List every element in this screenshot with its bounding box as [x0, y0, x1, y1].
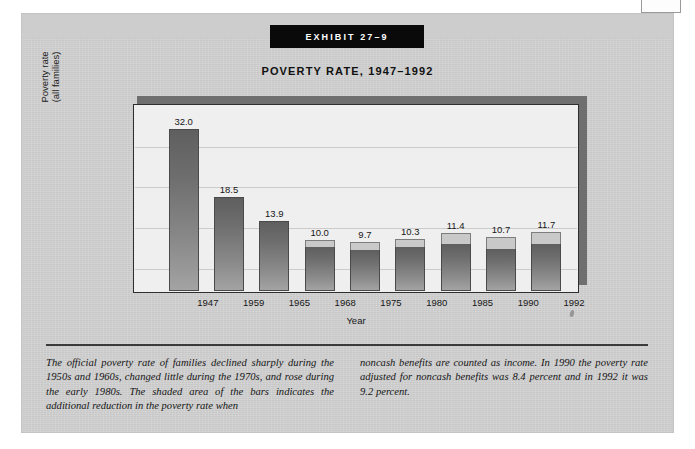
bar-body-1965	[259, 221, 289, 291]
bar-body-1959	[214, 197, 244, 291]
bar-1975	[350, 242, 380, 291]
x-tick-1990: 1990	[511, 297, 545, 308]
x-tick-1975: 1975	[374, 297, 408, 308]
bar-body-1980	[395, 247, 425, 291]
caption-column-right: noncash benefits are counted as income. …	[360, 356, 648, 414]
x-axis-tick-labels: 194719591965196819751980198519901992	[159, 297, 605, 308]
exhibit-page-panel: EXHIBIT 27–9 POVERTY RATE, 1947–1992 Pov…	[22, 14, 673, 432]
bar-column-1990: 10.7	[484, 114, 518, 291]
bar-column-1980: 10.3	[393, 114, 427, 291]
bar-column-1985: 11.4	[439, 114, 473, 291]
bar-1990	[486, 237, 516, 291]
bar-value-label-1992: 11.7	[516, 219, 576, 230]
bar-value-label-1965: 13.9	[244, 208, 304, 219]
bar-column-1975: 9.7	[348, 114, 382, 291]
bar-shaded-cap-1990	[486, 237, 516, 249]
bar-body-1975	[350, 250, 380, 291]
bar-body-1990	[486, 249, 516, 291]
bar-value-label-1959: 18.5	[199, 184, 259, 195]
caption-column-left: The official poverty rate of families de…	[46, 356, 334, 414]
page-corner-tab	[641, 0, 681, 13]
bar-column-1959: 18.5	[212, 114, 246, 291]
x-tick-1985: 1985	[465, 297, 499, 308]
bar-shaded-cap-1975	[350, 242, 380, 250]
chart-frame: 32.018.513.910.09.710.311.410.711.7	[133, 104, 579, 293]
x-tick-1992: 1992	[557, 297, 591, 308]
y-axis-label-line1: Poverty rate	[39, 31, 50, 123]
y-axis-label: Poverty rate (all families)	[39, 31, 61, 123]
exhibit-banner-label: EXHIBIT 27–9	[305, 32, 388, 42]
bar-column-1992: 11.7	[529, 114, 563, 291]
x-axis-label: Year	[133, 315, 579, 326]
bar-body-1968	[305, 247, 335, 291]
bar-shaded-cap-1968	[305, 240, 335, 247]
x-tick-1980: 1980	[420, 297, 454, 308]
plot-area: 32.018.513.910.09.710.311.410.711.7	[135, 106, 577, 291]
caption-block: The official poverty rate of families de…	[46, 356, 648, 414]
bar-value-label-1947: 32.0	[154, 116, 214, 127]
bar-body-1992	[531, 244, 561, 291]
bar-1959	[214, 197, 244, 291]
bar-series: 32.018.513.910.09.710.311.410.711.7	[161, 114, 569, 291]
bar-column-1947: 32.0	[167, 114, 201, 291]
bar-shaded-cap-1992	[531, 232, 561, 245]
bar-1965	[259, 221, 289, 291]
exhibit-banner: EXHIBIT 27–9	[270, 25, 424, 48]
bar-1980	[395, 239, 425, 291]
caption-divider	[46, 344, 648, 346]
bar-shaded-cap-1985	[441, 233, 471, 244]
x-tick-1947: 1947	[191, 297, 225, 308]
x-tick-1968: 1968	[328, 297, 362, 308]
bar-1992	[531, 232, 561, 291]
x-tick-1959: 1959	[237, 297, 271, 308]
y-axis-label-line2: (all families)	[50, 31, 61, 123]
bar-1985	[441, 233, 471, 291]
bar-shaded-cap-1980	[395, 239, 425, 247]
chart-title: POVERTY RATE, 1947–1992	[22, 65, 673, 77]
x-tick-1965: 1965	[282, 297, 316, 308]
bar-1968	[305, 240, 335, 291]
bar-body-1985	[441, 244, 471, 291]
bar-column-1965: 13.9	[257, 114, 291, 291]
bar-1947	[169, 129, 199, 291]
bar-column-1968: 10.0	[303, 114, 337, 291]
bar-body-1947	[169, 129, 199, 291]
